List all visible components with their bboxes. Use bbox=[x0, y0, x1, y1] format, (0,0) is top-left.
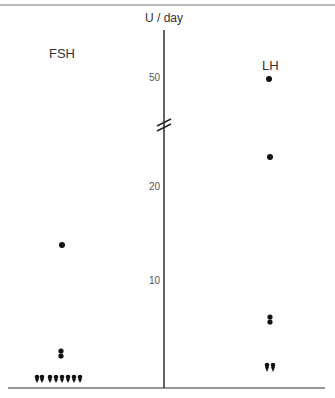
fsh-below-detection-markers bbox=[35, 375, 83, 383]
lh-below-detection-markers bbox=[265, 363, 276, 372]
fsh-label: FSH bbox=[49, 46, 75, 61]
lh-points bbox=[266, 76, 273, 325]
lh-label: LH bbox=[262, 58, 279, 73]
tick-50: 50 bbox=[130, 72, 160, 83]
fsh-points bbox=[58, 242, 65, 359]
y-axis-label: U / day bbox=[145, 11, 183, 25]
tick-20: 20 bbox=[130, 181, 160, 192]
tick-10: 10 bbox=[130, 275, 160, 286]
